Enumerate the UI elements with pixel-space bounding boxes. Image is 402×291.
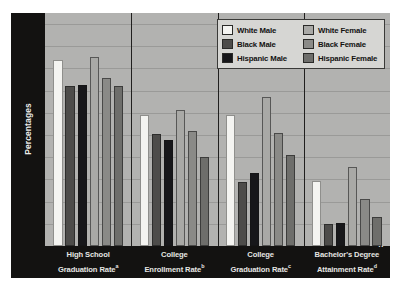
bar bbox=[324, 224, 333, 246]
y-axis-title: Percentages bbox=[23, 79, 33, 179]
category-label-line: Graduation Ratec bbox=[230, 261, 290, 275]
legend-label: Hispanic Female bbox=[318, 54, 377, 63]
legend-swatch bbox=[303, 25, 314, 35]
legend-swatch bbox=[222, 25, 233, 35]
bar bbox=[152, 134, 161, 246]
category-label-line: College bbox=[247, 249, 274, 261]
category-label-line: Graduation Ratea bbox=[58, 261, 118, 275]
bar bbox=[312, 181, 321, 246]
bar-group bbox=[45, 13, 131, 246]
legend-label: Black Female bbox=[318, 40, 366, 49]
bar bbox=[286, 155, 295, 246]
legend-item: White Female bbox=[303, 23, 380, 37]
legend-label: Black Male bbox=[237, 40, 276, 49]
legend-swatch bbox=[303, 39, 314, 49]
legend-item: Black Male bbox=[222, 37, 299, 51]
bar bbox=[348, 167, 357, 246]
bar bbox=[114, 86, 123, 246]
x-axis-category-label: High SchoolGraduation Ratea bbox=[47, 247, 130, 277]
bar bbox=[53, 60, 62, 246]
chart-figure: Percentages 1009080706050403020100 High … bbox=[11, 13, 390, 278]
bar bbox=[78, 85, 87, 246]
bar bbox=[226, 115, 235, 246]
legend-item: Black Female bbox=[303, 37, 380, 51]
footnote-marker: a bbox=[115, 263, 118, 269]
footnote-marker: d bbox=[374, 263, 377, 269]
bar bbox=[140, 115, 149, 246]
category-label-line: Bachelor's Degree bbox=[315, 249, 380, 261]
category-label-line: Enrollment Rateb bbox=[144, 261, 204, 275]
footnote-marker: c bbox=[288, 263, 291, 269]
footnote-marker: b bbox=[201, 263, 204, 269]
legend-item: White Male bbox=[222, 23, 299, 37]
legend-item: Hispanic Female bbox=[303, 51, 380, 65]
legend-label: White Female bbox=[318, 26, 366, 35]
bar bbox=[250, 173, 259, 246]
bar bbox=[164, 140, 173, 247]
bar bbox=[336, 223, 345, 246]
category-label-line: High School bbox=[67, 249, 110, 261]
bar bbox=[188, 131, 197, 246]
bar bbox=[102, 78, 111, 246]
bar bbox=[90, 57, 99, 246]
bar bbox=[200, 157, 209, 246]
x-axis-category-label: Bachelor's DegreeAttainment Rated bbox=[305, 247, 388, 277]
legend-item: Hispanic Male bbox=[222, 51, 299, 65]
x-axis-category-label: CollegeGraduation Ratec bbox=[219, 247, 302, 277]
bar bbox=[238, 182, 247, 246]
bar bbox=[262, 97, 271, 246]
chart-legend: White MaleWhite FemaleBlack MaleBlack Fe… bbox=[217, 19, 385, 69]
bar bbox=[360, 199, 369, 246]
legend-swatch bbox=[222, 53, 233, 63]
category-label-line: College bbox=[161, 249, 188, 261]
bar bbox=[372, 217, 381, 246]
legend-swatch bbox=[303, 53, 314, 63]
legend-label: Hispanic Male bbox=[237, 54, 287, 63]
category-label-line: Attainment Rated bbox=[317, 261, 377, 275]
bar bbox=[176, 110, 185, 246]
x-axis-category-label: CollegeEnrollment Rateb bbox=[133, 247, 216, 277]
legend-swatch bbox=[222, 39, 233, 49]
bar bbox=[65, 86, 74, 246]
bar-group bbox=[131, 13, 217, 246]
legend-label: White Male bbox=[237, 26, 276, 35]
bar bbox=[274, 133, 283, 246]
